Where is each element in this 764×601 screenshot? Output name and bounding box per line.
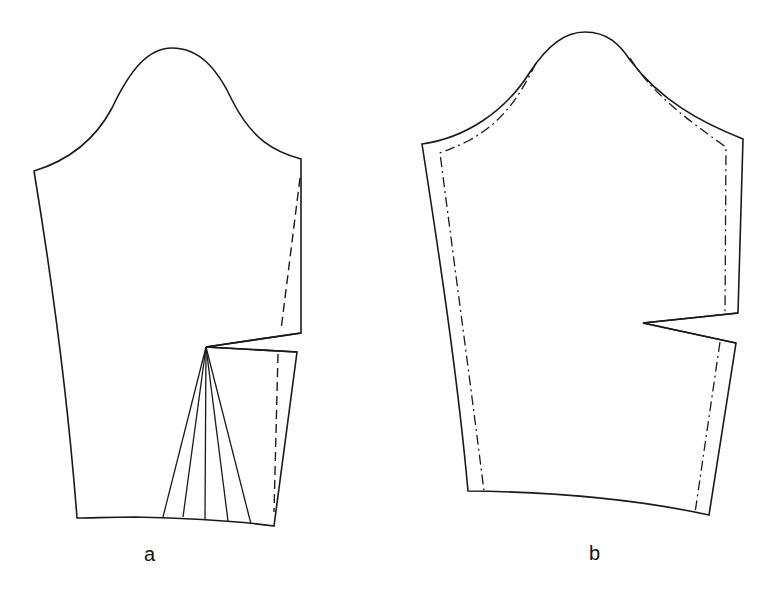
panel-label-a: a [144, 543, 155, 566]
sleeve-b-dart [643, 313, 738, 343]
sleeve-b-outline [422, 32, 743, 515]
sleeve-b [422, 32, 743, 515]
sleeve-a-outline [34, 48, 301, 526]
sleeve-diagram [0, 0, 764, 601]
sleeve-a-dart [206, 333, 301, 352]
sleeve-b-seam-line-right-upper [630, 58, 726, 312]
sleeve-a [34, 48, 301, 526]
sleeve-b-seam-line [440, 63, 536, 491]
panel-label-b: b [589, 542, 600, 565]
sleeve-b-seam-line-right-lower [695, 342, 720, 513]
sleeve-a-slash-lines [163, 347, 251, 524]
sleeve-a-construction-line-lower [274, 354, 278, 512]
sleeve-a-construction-line [281, 178, 300, 330]
